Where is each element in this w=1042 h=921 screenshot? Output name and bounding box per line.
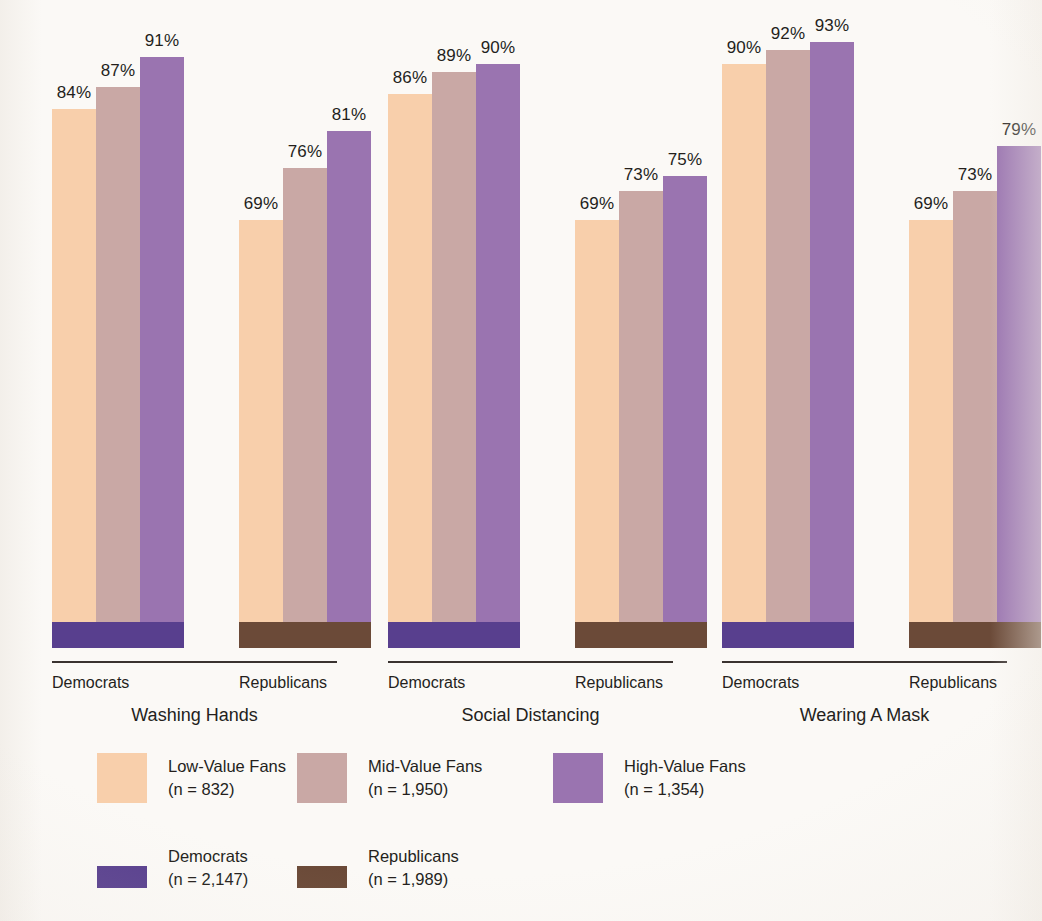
legend-label: Republicans(n = 1,989) (368, 845, 459, 891)
bar-value-label: 93% (797, 16, 867, 36)
bar-value-label: 91% (127, 31, 197, 51)
party-band-republicans (575, 622, 707, 648)
chart-figure: 84%87%91%Democrats69%76%81%RepublicansWa… (0, 0, 1042, 921)
legend-sample-size: (n = 1,354) (624, 778, 746, 801)
group-axis-line (722, 661, 1007, 663)
bar-value-label: 90% (463, 38, 533, 58)
group-axis-line (52, 661, 337, 663)
bar (239, 220, 283, 648)
bar-value-label: 81% (314, 105, 384, 125)
plot-area: 84%87%91%Democrats69%76%81%RepublicansWa… (0, 0, 1042, 730)
party-label-democrats: Democrats (388, 674, 465, 692)
legend-item[interactable]: Mid-Value Fans(n = 1,950) (297, 753, 482, 803)
bar (722, 64, 766, 648)
party-band-republicans (909, 622, 1041, 648)
legend-item[interactable]: Republicans(n = 1,989) (297, 843, 459, 891)
party-label-democrats: Democrats (52, 674, 129, 692)
party-band-democrats (722, 622, 854, 648)
party-band-democrats (52, 622, 184, 648)
legend-swatch (97, 753, 147, 803)
bar (283, 168, 327, 648)
group-axis-line (388, 661, 673, 663)
group-title: Social Distancing (388, 705, 673, 726)
legend-item[interactable]: High-Value Fans(n = 1,354) (553, 753, 746, 803)
legend-label: Low-Value Fans(n = 832) (168, 755, 286, 801)
bar (810, 42, 854, 648)
bar (327, 131, 371, 648)
legend-item[interactable]: Democrats(n = 2,147) (97, 843, 248, 891)
legend-sample-size: (n = 2,147) (168, 868, 248, 891)
bar (52, 109, 96, 648)
legend-sample-size: (n = 832) (168, 778, 286, 801)
legend-label: Mid-Value Fans(n = 1,950) (368, 755, 482, 801)
party-label-republicans: Republicans (575, 674, 663, 692)
bar (997, 146, 1041, 648)
legend-sample-size: (n = 1,989) (368, 868, 459, 891)
bar (575, 220, 619, 648)
bar-value-label: 79% (984, 120, 1042, 140)
bar (476, 64, 520, 648)
bar (619, 191, 663, 648)
bar (388, 94, 432, 648)
bar-value-label: 75% (650, 150, 720, 170)
legend-item[interactable]: Low-Value Fans(n = 832) (97, 753, 286, 803)
bar (909, 220, 953, 648)
party-label-republicans: Republicans (239, 674, 327, 692)
bar (140, 57, 184, 648)
legend-swatch (553, 753, 603, 803)
group-title: Wearing A Mask (722, 705, 1007, 726)
bar (953, 191, 997, 648)
bar (766, 50, 810, 648)
legend-sample-size: (n = 1,950) (368, 778, 482, 801)
party-band-democrats (388, 622, 520, 648)
bar (663, 176, 707, 648)
legend-label: Democrats(n = 2,147) (168, 845, 248, 891)
party-band-republicans (239, 622, 371, 648)
legend-swatch (97, 866, 147, 888)
group-title: Washing Hands (52, 705, 337, 726)
legend-swatch (297, 866, 347, 888)
party-label-republicans: Republicans (909, 674, 997, 692)
party-label-democrats: Democrats (722, 674, 799, 692)
legend-label: High-Value Fans(n = 1,354) (624, 755, 746, 801)
legend-swatch (297, 753, 347, 803)
bar (96, 87, 140, 648)
bar (432, 72, 476, 648)
